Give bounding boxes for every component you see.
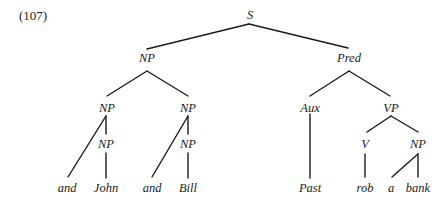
- tree-edge-np_top-np_left: [107, 71, 147, 96]
- tree-node-np-right-inner: NP: [179, 137, 196, 151]
- tree-nodes: SNPPredNPNPAuxVPNPNPVNPandJohnandBillPas…: [58, 8, 431, 195]
- tree-edges: [68, 24, 418, 178]
- tree-node-john: John: [94, 181, 118, 195]
- tree-node-vp: VP: [383, 101, 399, 115]
- tree-node-np-right: NP: [179, 101, 196, 115]
- tree-node-and-1: and: [58, 181, 78, 195]
- tree-node-bill: Bill: [179, 181, 198, 195]
- tree-edge-np_top-np_right: [147, 71, 188, 96]
- tree-node-pred: Pred: [336, 51, 362, 65]
- tree-edge-pred-vp: [349, 71, 390, 96]
- tree-node-np-left: NP: [98, 101, 115, 115]
- tree-node-and-2: and: [143, 181, 163, 195]
- tree-edge-pred-aux: [310, 71, 349, 96]
- tree-edge-s-pred: [249, 24, 348, 48]
- tree-canvas: SNPPredNPNPAuxVPNPNPVNPandJohnandBillPas…: [0, 0, 446, 200]
- tree-node-np-left-inner: NP: [97, 137, 114, 151]
- tree-node-rob: rob: [357, 181, 374, 195]
- tree-node-s: S: [247, 8, 254, 22]
- tree-node-v: V: [361, 137, 370, 151]
- tree-node-aux: Aux: [299, 101, 320, 115]
- syntax-tree-diagram: (107) SNPPredNPNPAuxVPNPNPVNPandJohnandB…: [0, 0, 446, 200]
- tree-node-bank: bank: [406, 181, 431, 195]
- tree-node-past: Past: [298, 181, 322, 195]
- tree-edge-vp-np_obj: [391, 116, 418, 132]
- tree-node-np-obj: NP: [409, 137, 426, 151]
- tree-node-np-top: NP: [138, 51, 155, 65]
- tree-node-a: a: [388, 181, 394, 195]
- tree-edge-s-np_top: [147, 24, 249, 49]
- tree-edge-vp-v: [367, 116, 391, 132]
- tree-edge-np_obj-a: [392, 154, 418, 177]
